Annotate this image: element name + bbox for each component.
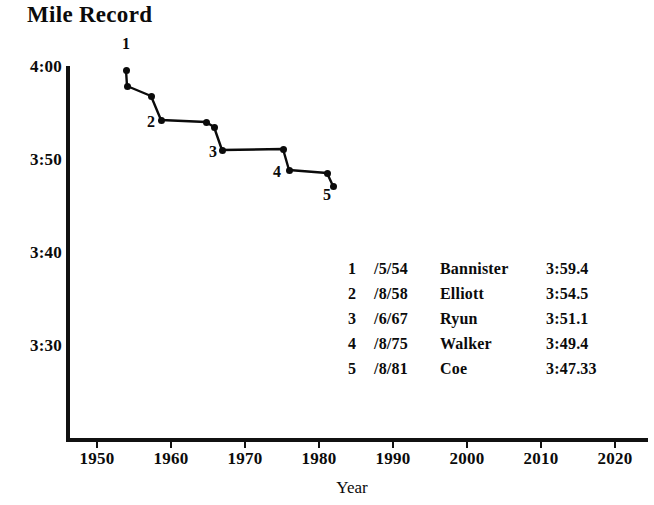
data-point xyxy=(124,83,131,90)
x-axis-tick-label: 2020 xyxy=(585,449,645,469)
x-axis-tick-mark xyxy=(318,442,320,448)
record-line-series xyxy=(0,0,654,505)
record-annotation-4: 4 xyxy=(267,163,287,181)
data-point xyxy=(219,147,226,154)
record-annotation-1: 1 xyxy=(116,35,136,53)
legend-time: 3:47.33 xyxy=(546,360,597,385)
x-axis-line xyxy=(66,438,648,442)
data-point xyxy=(148,93,155,100)
legend-athlete: Elliott xyxy=(440,285,546,310)
legend-time: 3:51.1 xyxy=(546,310,597,335)
x-axis-tick-label: 2010 xyxy=(511,449,571,469)
legend-athlete: Walker xyxy=(440,335,546,360)
record-annotation-3: 3 xyxy=(203,143,223,161)
x-axis-tick-label: 1990 xyxy=(363,449,423,469)
data-point xyxy=(123,67,130,74)
legend-athlete: Ryun xyxy=(440,310,546,335)
y-axis-tick-label: 4:00 xyxy=(0,57,62,77)
x-axis-tick-mark xyxy=(392,442,394,448)
legend-index: 2 xyxy=(348,285,374,310)
legend-time: 3:49.4 xyxy=(546,335,597,360)
data-point xyxy=(324,170,331,177)
y-axis-line xyxy=(66,66,70,442)
mile-record-chart: Mile Record 4:003:503:403:30 19501960197… xyxy=(0,0,654,505)
legend-time: 3:59.4 xyxy=(546,260,597,285)
data-point xyxy=(203,119,210,126)
legend-table: 1/5/54Bannister3:59.42/8/58Elliott3:54.5… xyxy=(348,260,597,385)
legend-index: 3 xyxy=(348,310,374,335)
record-annotation-2: 2 xyxy=(141,113,161,131)
legend-index: 4 xyxy=(348,335,374,360)
record-annotation-5: 5 xyxy=(317,186,337,204)
legend-date: /8/75 xyxy=(374,335,440,360)
x-axis-title-text: Year xyxy=(336,478,367,497)
x-axis-tick-label: 1980 xyxy=(289,449,349,469)
page-title: Mile Record xyxy=(27,2,152,28)
x-axis-title: Year xyxy=(0,478,654,498)
x-axis-tick-mark xyxy=(614,442,616,448)
x-axis-tick-label: 1970 xyxy=(215,449,275,469)
y-axis-tick-label: 3:40 xyxy=(0,243,62,263)
legend-time: 3:54.5 xyxy=(546,285,597,310)
legend-row: 3/6/67Ryun3:51.1 xyxy=(348,310,597,335)
x-axis-tick-label: 1960 xyxy=(141,449,201,469)
x-axis-tick-mark xyxy=(170,442,172,448)
data-point xyxy=(280,146,287,153)
x-axis-tick-mark xyxy=(244,442,246,448)
legend-athlete: Bannister xyxy=(440,260,546,285)
legend-date: /8/58 xyxy=(374,285,440,310)
legend-row: 2/8/58Elliott3:54.5 xyxy=(348,285,597,310)
legend-index: 1 xyxy=(348,260,374,285)
x-axis-tick-mark xyxy=(466,442,468,448)
legend-index: 5 xyxy=(348,360,374,385)
data-point xyxy=(211,124,218,131)
data-point xyxy=(286,167,293,174)
legend-athlete: Coe xyxy=(440,360,546,385)
x-axis-tick-mark xyxy=(540,442,542,448)
legend-date: /6/67 xyxy=(374,310,440,335)
legend-date: /5/54 xyxy=(374,260,440,285)
data-point xyxy=(158,117,165,124)
data-point xyxy=(330,183,337,190)
y-axis-tick-label: 3:50 xyxy=(0,150,62,170)
legend-row: 5/8/81Coe3:47.33 xyxy=(348,360,597,385)
y-axis-tick-label: 3:30 xyxy=(0,336,62,356)
legend-date: /8/81 xyxy=(374,360,440,385)
legend-row: 1/5/54Bannister3:59.4 xyxy=(348,260,597,285)
plot-area: 12345 xyxy=(0,0,654,505)
x-axis-tick-label: 1950 xyxy=(67,449,127,469)
legend-row: 4/8/75Walker3:49.4 xyxy=(348,335,597,360)
x-axis-tick-label: 2000 xyxy=(437,449,497,469)
x-axis-tick-mark xyxy=(96,442,98,448)
